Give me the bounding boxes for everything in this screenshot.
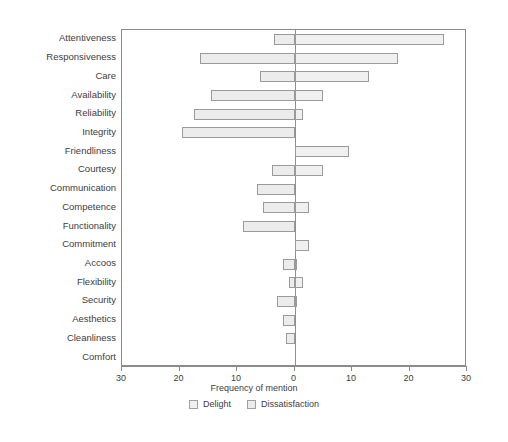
x-axis-tick <box>179 366 180 371</box>
bar-delight <box>295 90 324 101</box>
figure: AttentivenessResponsivenessCareAvailabil… <box>0 0 508 442</box>
category-label: Commitment <box>0 239 116 249</box>
bar-dissatisfaction <box>274 34 294 45</box>
x-axis-title: Frequency of mention <box>0 383 508 393</box>
x-axis-tick-label: 10 <box>231 373 241 383</box>
chart-legend: DelightDissatisfaction <box>0 399 508 409</box>
bar-dissatisfaction <box>200 53 295 64</box>
x-axis-tick-label: 20 <box>173 373 183 383</box>
bar-delight <box>295 277 304 288</box>
bar-dissatisfaction <box>243 221 295 232</box>
x-axis: 3020100102030 <box>121 366 466 367</box>
x-axis-tick <box>351 366 352 371</box>
category-label: Responsiveness <box>0 52 116 62</box>
dissatisfaction-swatch <box>247 400 256 409</box>
category-label: Accoos <box>0 258 116 268</box>
bar-dissatisfaction <box>182 127 294 138</box>
bar-delight <box>295 240 309 251</box>
bar-dissatisfaction <box>286 333 295 344</box>
bar-delight <box>295 296 298 307</box>
bar-delight <box>295 146 350 157</box>
bar-dissatisfaction <box>277 296 294 307</box>
bar-dissatisfaction <box>260 71 295 82</box>
category-label: Availability <box>0 90 116 100</box>
bar-delight <box>295 202 309 213</box>
category-label: Aesthetics <box>0 314 116 324</box>
category-label: Integrity <box>0 127 116 137</box>
x-axis-tick <box>236 366 237 371</box>
bar-delight <box>295 71 370 82</box>
bar-dissatisfaction <box>283 259 295 270</box>
bar-delight <box>295 34 445 45</box>
category-label: Courtesy <box>0 164 116 174</box>
category-label: Friendliness <box>0 146 116 156</box>
x-axis-tick-label: 30 <box>461 373 471 383</box>
x-axis-tick <box>409 366 410 371</box>
delight-swatch <box>189 400 198 409</box>
x-axis-tick-label: 0 <box>291 373 296 383</box>
bar-delight <box>295 165 324 176</box>
bar-dissatisfaction <box>272 165 295 176</box>
bar-dissatisfaction <box>263 202 295 213</box>
x-axis-tick-label: 30 <box>116 373 126 383</box>
x-axis-tick <box>294 366 295 371</box>
bar-dissatisfaction <box>211 90 294 101</box>
legend-label: Delight <box>203 399 231 409</box>
category-label: Competence <box>0 202 116 212</box>
category-label: Communication <box>0 183 116 193</box>
category-label: Security <box>0 295 116 305</box>
x-axis-tick <box>121 366 122 371</box>
legend-label: Dissatisfaction <box>261 399 319 409</box>
x-axis-tick-label: 20 <box>403 373 413 383</box>
bar-dissatisfaction <box>194 109 295 120</box>
legend-item: Delight <box>189 399 231 409</box>
plot-area <box>121 29 466 366</box>
bar-delight <box>295 259 298 270</box>
x-axis-tick <box>466 366 467 371</box>
category-label: Functionality <box>0 221 116 231</box>
bar-dissatisfaction <box>257 184 294 195</box>
category-label: Attentiveness <box>0 33 116 43</box>
category-label: Flexibility <box>0 277 116 287</box>
category-axis-labels: AttentivenessResponsivenessCareAvailabil… <box>0 29 116 366</box>
category-label: Comfort <box>0 352 116 362</box>
x-axis-tick-label: 10 <box>346 373 356 383</box>
bar-delight <box>295 109 304 120</box>
category-label: Care <box>0 71 116 81</box>
bar-dissatisfaction <box>283 315 295 326</box>
category-label: Reliability <box>0 108 116 118</box>
bar-delight <box>295 53 399 64</box>
legend-item: Dissatisfaction <box>247 399 319 409</box>
category-label: Cleanliness <box>0 333 116 343</box>
